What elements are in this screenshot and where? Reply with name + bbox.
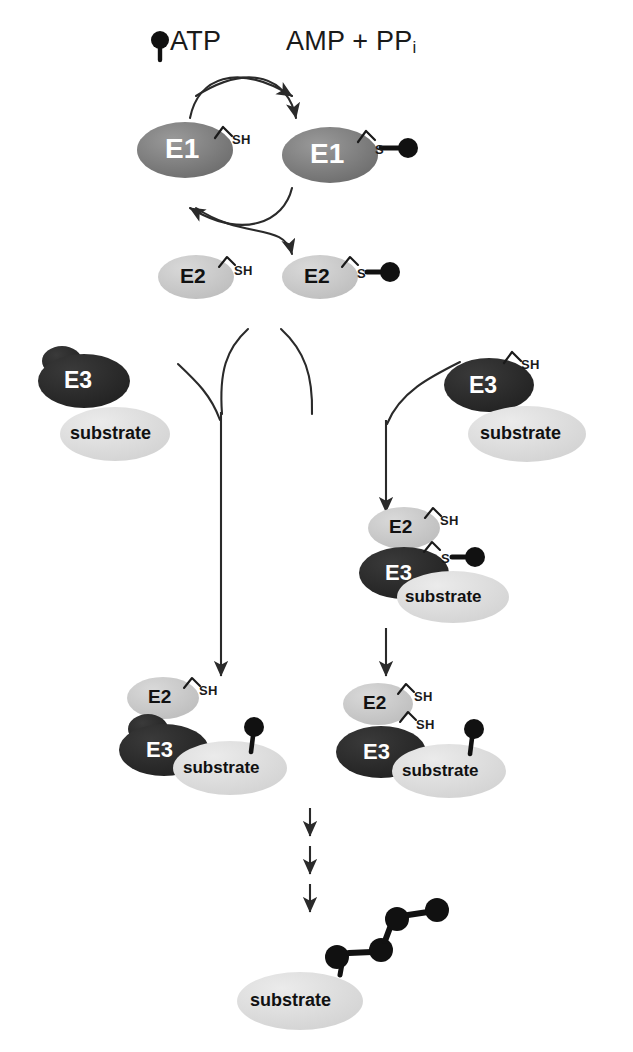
products-label: AMP + PPi: [286, 26, 416, 58]
e3-hect-cplx-thiol-label: S: [441, 551, 450, 566]
node-e2-ub: [282, 255, 400, 299]
e2-free-thiol-label: SH: [234, 263, 253, 278]
atp-label: ATP: [170, 26, 221, 57]
atp-text: ATP: [170, 26, 221, 56]
node-e1-free: [137, 122, 233, 178]
node-e2-free: [158, 255, 235, 299]
e3-hect-thiol-label: SH: [521, 357, 540, 372]
e2-hect-cplx-thiol-label: SH: [440, 513, 459, 528]
diagram-canvas: ATP AMP + PPi E1 SH E1 S E2 SH E2 S E3 s…: [0, 0, 633, 1052]
molecule-glyphs: [38, 31, 586, 1030]
ubiquitin-icon-atp: [151, 31, 169, 60]
node-substrate-poly: [237, 972, 363, 1030]
node-substrate-hect: [468, 406, 586, 462]
e1-ub-thiol-label: S: [375, 142, 384, 157]
pathway-artwork: [0, 0, 633, 1052]
e2-right-out-thiol-label: SH: [414, 689, 433, 704]
node-e3-ring: [38, 346, 130, 408]
branch-path: [178, 329, 460, 424]
polyubiquitin-chain: [325, 898, 449, 975]
arrow-icon: [221, 412, 386, 912]
node-substrate-ring: [60, 407, 170, 461]
e2-ub-thiol-label: S: [357, 266, 366, 281]
products-text: AMP + PP: [286, 26, 412, 56]
products-subscript: i: [412, 38, 416, 57]
e2-left-out-thiol-label: SH: [199, 683, 218, 698]
complex-hect-charged: [359, 507, 509, 623]
node-e1-ub: [282, 127, 418, 183]
e3-right-out-thiol-label: SH: [416, 717, 435, 732]
e1-free-thiol-label: SH: [232, 132, 251, 147]
